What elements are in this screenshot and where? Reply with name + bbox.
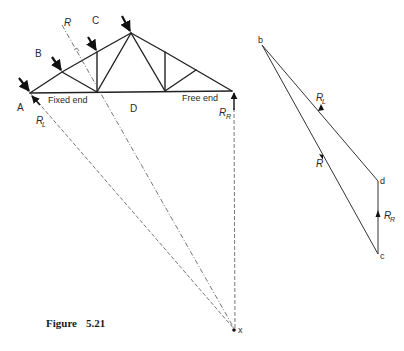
- load-arrow-icon: [88, 37, 96, 50]
- truss: [30, 33, 232, 93]
- caption-number: 5.21: [86, 317, 105, 329]
- caption-label: Figure: [46, 317, 77, 329]
- figure-5-21-diagram: A B C D Fixed end Free end R L R R R x b…: [0, 0, 404, 351]
- diagonal-1: [62, 72, 97, 92]
- force-polygon: [262, 45, 381, 254]
- rr-line-of-action: [234, 108, 235, 330]
- label-rl: R L: [36, 115, 46, 128]
- rl-arrow-icon: [32, 96, 40, 105]
- top-chord-right: [131, 33, 232, 91]
- rl-line-of-action: [30, 93, 235, 330]
- svg-text:R: R: [64, 17, 71, 28]
- point-c: c: [380, 251, 385, 261]
- load-arrow-icon: [19, 78, 29, 91]
- free-end-label: Free end: [182, 93, 218, 103]
- rr-direction-arrow-icon: [376, 210, 381, 217]
- label-force-r: R: [316, 158, 323, 169]
- label-force-rl: R L: [316, 92, 326, 105]
- load-arrow-icon: [52, 57, 61, 70]
- svg-text:L: L: [322, 98, 326, 105]
- construction-lines: [30, 25, 236, 332]
- label-resultant: R: [64, 17, 71, 28]
- top-chord-left: [30, 33, 131, 93]
- figure-caption: Figure 5.21: [46, 317, 105, 329]
- zone-label-b: B: [35, 48, 42, 59]
- zone-label-c: C: [92, 15, 99, 26]
- svg-text:R: R: [316, 158, 323, 169]
- resultant-line-of-action: [62, 25, 235, 330]
- intersection-label-x: x: [238, 325, 243, 335]
- right-angle-mark: [74, 48, 79, 51]
- load-arrow-icon: [122, 16, 130, 31]
- label-rr: R R: [219, 107, 231, 120]
- diagonal-4: [165, 70, 196, 91]
- intersection-point: [232, 328, 236, 332]
- rl-direction-arrow-icon: [318, 104, 324, 111]
- zone-label-d: D: [130, 103, 137, 114]
- label-force-rr: R R: [384, 210, 395, 223]
- svg-text:L: L: [42, 121, 46, 128]
- fixed-end-label: Fixed end: [48, 95, 88, 105]
- point-d: d: [380, 176, 385, 186]
- vector-r: [262, 45, 378, 254]
- svg-text:R: R: [226, 113, 231, 120]
- point-b: b: [258, 35, 263, 45]
- svg-text:R: R: [390, 216, 395, 223]
- zone-label-a: A: [17, 102, 24, 113]
